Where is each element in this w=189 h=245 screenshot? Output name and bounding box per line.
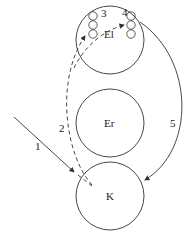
label-el: El: [104, 28, 114, 40]
arrow-2: [67, 36, 92, 185]
label-1: 1: [35, 140, 41, 152]
label-5: 5: [170, 117, 176, 129]
label-2: 2: [59, 122, 65, 134]
arrow-5: [140, 22, 182, 180]
label-3: 3: [101, 7, 107, 19]
diagram-canvas: El Er K 1 2 3 4 5: [0, 0, 189, 245]
arrow-3-4: [74, 25, 124, 68]
node-el: [76, 6, 144, 74]
label-4: 4: [122, 6, 128, 18]
label-k: K: [106, 190, 114, 202]
label-er: Er: [104, 117, 115, 129]
left-stack-icon: [89, 12, 97, 38]
arrow-1: [14, 117, 74, 172]
